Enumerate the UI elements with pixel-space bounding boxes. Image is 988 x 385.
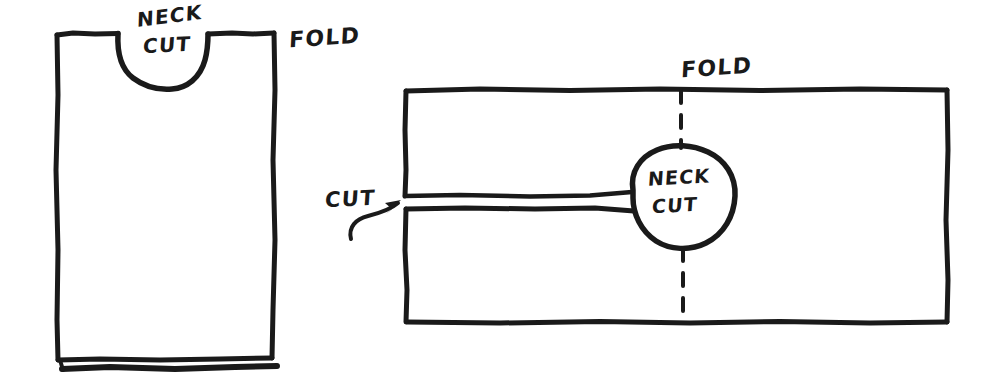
flat-left-edge-upper — [405, 91, 406, 196]
flat-fabric-figure — [350, 89, 948, 323]
shirt-fold-label: FOLD — [288, 24, 360, 51]
flat-cut-line-lower — [406, 208, 634, 211]
flat-right-edge — [946, 90, 948, 322]
shirt-neck-cut-label-line2: CUT — [142, 34, 192, 57]
shirt-figure — [56, 33, 277, 370]
flat-cut-line-upper — [405, 192, 632, 197]
shirt-bottom-hem-outer — [58, 358, 272, 360]
shirt-right-edge — [272, 33, 275, 358]
flat-neck-cut-label-line2: CUT — [651, 195, 698, 216]
cut-arrow-head — [385, 200, 401, 214]
flat-cut-label: CUT — [324, 188, 376, 212]
diagram-canvas: NECK CUT FOLD FOLD CUT NECK CUT — [0, 0, 988, 385]
flat-fold-label: FOLD — [680, 54, 752, 81]
shirt-left-edge — [56, 35, 58, 360]
flat-bottom-edge — [407, 322, 947, 324]
shirt-bottom-hem-inner — [62, 366, 277, 369]
flat-top-edge — [406, 89, 947, 91]
flat-left-edge-lower — [405, 209, 407, 322]
shirt-top-left-edge — [57, 33, 118, 35]
flat-neck-cut-label-line1: NECK — [647, 166, 710, 188]
shirt-top-right-edge — [208, 33, 274, 34]
